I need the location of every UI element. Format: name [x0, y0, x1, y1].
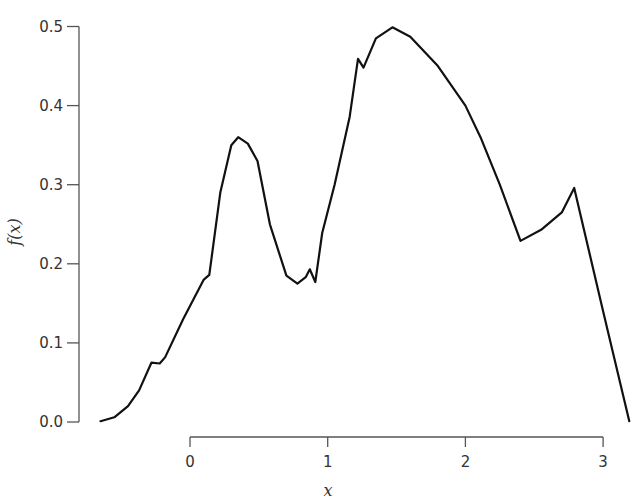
density-curve [101, 27, 630, 421]
y-axis-title: f(x) [5, 218, 24, 246]
y-tick-label: 0.0 [39, 413, 63, 431]
x-tick-label: 0 [185, 453, 195, 471]
x-axis: 0123 [185, 437, 608, 471]
y-tick-label: 0.4 [39, 97, 63, 115]
y-tick-label: 0.5 [39, 18, 63, 36]
x-axis-title: x [323, 481, 332, 500]
y-tick-label: 0.2 [39, 255, 63, 273]
y-axis: 0.00.10.20.30.40.5 [39, 18, 79, 432]
y-tick-label: 0.3 [39, 176, 63, 194]
x-tick-label: 3 [598, 453, 608, 471]
y-tick-label: 0.1 [39, 334, 63, 352]
x-tick-label: 1 [323, 453, 333, 471]
line-chart: 0.00.10.20.30.40.5 0123 x f(x) [0, 0, 633, 504]
x-tick-label: 2 [461, 453, 471, 471]
